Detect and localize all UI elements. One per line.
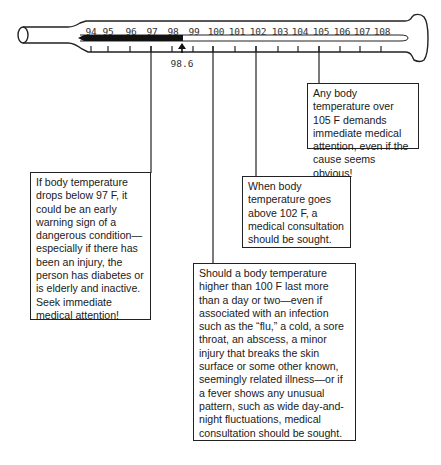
scale-label-99: 99: [189, 26, 200, 37]
scale-label-97: 97: [147, 26, 158, 37]
note-over-105: Any body temperature over 105 F demands …: [307, 83, 419, 149]
scale-label-103: 103: [272, 26, 288, 37]
note-above-100-text: Should a body temperature higher than 10…: [199, 267, 351, 440]
thermometer-bulb: [18, 27, 28, 43]
scale-label-106: 106: [334, 26, 350, 37]
note-above-102: When body temperature goes above 102 F, …: [242, 176, 351, 248]
scale-label-95: 95: [103, 26, 114, 37]
note-below-97-text: If body temperature drops below 97 F, it…: [36, 176, 146, 322]
scale-label-107: 107: [354, 26, 370, 37]
scale-label-108: 108: [374, 26, 390, 37]
scale-ticks: [91, 46, 381, 52]
scale-label-94: 94: [86, 26, 97, 37]
scale-label-105: 105: [313, 26, 329, 37]
scale-label-96: 96: [126, 26, 137, 37]
note-above-102-text: When body temperature goes above 102 F, …: [248, 180, 346, 246]
thermometer-diagram: 94 95 96 97 98 99 100 101 102 103 104 10…: [0, 0, 441, 465]
note-below-97: If body temperature drops below 97 F, it…: [30, 172, 151, 320]
note-above-100: Should a body temperature higher than 10…: [193, 263, 356, 441]
scale-label-102: 102: [250, 26, 266, 37]
scale-label-98: 98: [168, 26, 179, 37]
normal-temp-label: 98.6: [171, 58, 194, 69]
scale-label-100: 100: [208, 26, 224, 37]
scale-label-104: 104: [292, 26, 308, 37]
note-over-105-text: Any body temperature over 105 F demands …: [313, 87, 414, 180]
scale-label-101: 101: [229, 26, 245, 37]
